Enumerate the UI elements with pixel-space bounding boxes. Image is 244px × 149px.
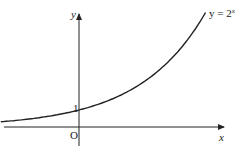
- x-axis-label: x: [218, 131, 224, 143]
- curve-label: y = 2x: [209, 7, 236, 19]
- y-intercept-label: 1: [73, 102, 79, 114]
- y-axis-label: y: [70, 8, 76, 20]
- exponential-graph: y x O 1 y = 2x: [0, 0, 244, 149]
- origin-label: O: [70, 129, 78, 141]
- graph-canvas: y x O 1 y = 2x: [0, 0, 244, 149]
- exponential-curve: [1, 13, 206, 122]
